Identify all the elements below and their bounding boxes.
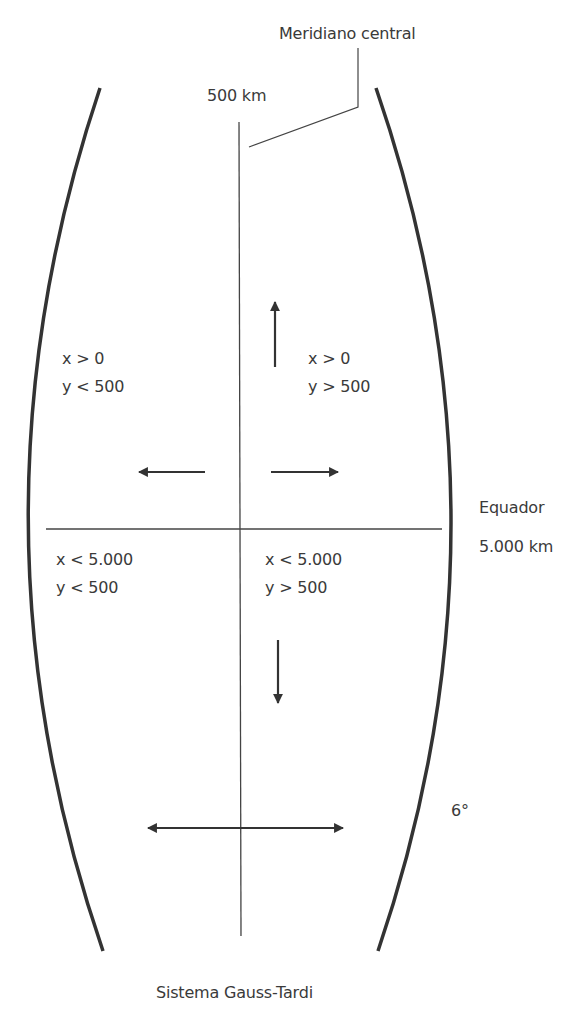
quadrant-bottom-left-x: x < 5.000 bbox=[56, 546, 133, 574]
quadrant-top-left-x: x > 0 bbox=[62, 345, 124, 373]
quadrant-top-right-y: y > 500 bbox=[308, 373, 370, 401]
quadrant-bottom-right-y: y > 500 bbox=[265, 574, 342, 602]
quadrant-bottom-right: x < 5.000 y > 500 bbox=[265, 546, 342, 602]
diagram-title: Sistema Gauss-Tardi bbox=[156, 983, 313, 1003]
quadrant-top-right-x: x > 0 bbox=[308, 345, 370, 373]
left-zone-boundary bbox=[28, 88, 103, 951]
quadrant-bottom-right-x: x < 5.000 bbox=[265, 546, 342, 574]
quadrant-bottom-left-y: y < 500 bbox=[56, 574, 133, 602]
meridian-value-label: 500 km bbox=[207, 86, 266, 106]
equator-label: Equador bbox=[479, 498, 544, 518]
zone-width-label: 6° bbox=[451, 801, 469, 821]
central-meridian-label: Meridiano central bbox=[279, 24, 416, 44]
quadrant-top-left: x > 0 y < 500 bbox=[62, 345, 124, 401]
quadrant-top-left-y: y < 500 bbox=[62, 373, 124, 401]
right-zone-boundary bbox=[376, 88, 451, 951]
quadrant-top-right: x > 0 y > 500 bbox=[308, 345, 370, 401]
quadrant-bottom-left: x < 5.000 y < 500 bbox=[56, 546, 133, 602]
equator-value-label: 5.000 km bbox=[479, 537, 553, 557]
